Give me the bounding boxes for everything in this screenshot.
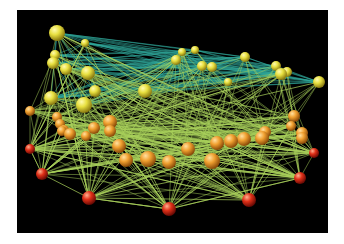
orange-node [25,106,35,116]
red-node [294,172,306,184]
yellow-node [191,46,199,54]
red-node [36,168,48,180]
yellow-node [240,52,250,62]
yellow-node [81,39,89,47]
orange-node [81,131,91,141]
red-node [309,148,319,158]
yellow-node [207,62,217,72]
red-node [242,193,256,207]
orange-node [224,134,238,148]
orange-node [88,122,100,134]
yellow-node [76,97,92,113]
yellow-node [89,85,101,97]
orange-node [112,139,126,153]
yellow-node [44,91,58,105]
orange-node [204,153,220,169]
yellow-node [313,76,325,88]
orange-node [104,125,116,137]
yellow-node [60,63,72,75]
orange-node [162,155,176,169]
orange-node [296,132,308,144]
orange-node [64,128,76,140]
yellow-node [171,55,181,65]
orange-node [288,110,300,122]
yellow-node [49,25,65,41]
red-node [82,191,96,205]
yellow-node [224,78,232,86]
yellow-node [47,57,59,69]
orange-node [119,153,133,167]
network-graph-panel [17,10,328,233]
red-node [25,144,35,154]
orange-node [286,121,296,131]
yellow-node [81,66,95,80]
yellow-node [178,48,186,56]
orange-node [140,151,156,167]
network-graph [17,10,328,233]
orange-node [255,131,269,145]
red-node [162,202,176,216]
yellow-node [197,61,207,71]
yellow-node [275,68,287,80]
yellow-node [138,84,152,98]
orange-node [210,136,224,150]
orange-node [237,132,251,146]
orange-node [181,142,195,156]
